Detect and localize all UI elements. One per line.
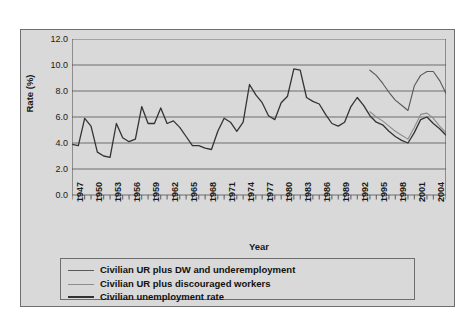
series-line: [370, 112, 446, 139]
legend-line-swatch: [68, 284, 94, 285]
x-tick-label: 1965: [190, 182, 199, 202]
x-tick-label: 1956: [133, 182, 142, 202]
legend-item: Civilian UR plus DW and underemployment: [68, 264, 295, 276]
gridlines: [72, 39, 446, 195]
x-tick-label: 1989: [342, 182, 351, 202]
y-tick-label: 0.0: [55, 191, 68, 200]
y-axis-tick-labels: 12.0 10.0 8.0 6.0 4.0 2.0 0.0: [31, 30, 68, 210]
y-tick-label: 4.0: [55, 139, 68, 148]
legend-line-swatch: [68, 270, 94, 271]
series-lines: [72, 69, 446, 157]
x-tick-label: 1953: [114, 182, 123, 202]
y-tick-label: 8.0: [55, 87, 68, 96]
plot-area: 1947195019531956195919621965196819711974…: [72, 39, 446, 195]
x-tick-label: 1971: [228, 182, 237, 202]
series-line: [370, 70, 446, 110]
series-line: [72, 69, 446, 157]
x-tick-label: 1977: [266, 182, 275, 202]
legend-item-label: Civilian UR plus DW and underemployment: [100, 265, 295, 275]
chart-screenshot: Rate (%) 12.0 10.0 8.0 6.0 4.0 2.0 0.0: [0, 0, 474, 321]
x-tick-label: 1968: [209, 182, 218, 202]
x-tick-label: 1986: [323, 182, 332, 202]
plot-svg: [72, 39, 446, 224]
x-tick-label: 1962: [171, 182, 180, 202]
x-tick-label: 1983: [304, 182, 313, 202]
y-tick-label: 10.0: [50, 61, 68, 70]
chart-inner: Rate (%) 12.0 10.0 8.0 6.0 4.0 2.0 0.0: [21, 30, 454, 306]
legend-line-swatch: [68, 296, 94, 298]
x-tick-label: 2004: [437, 182, 446, 202]
chart-frame: Rate (%) 12.0 10.0 8.0 6.0 4.0 2.0 0.0: [20, 29, 455, 307]
x-tick-label: 1959: [152, 182, 161, 202]
x-tick-label: 1950: [95, 182, 104, 202]
x-tick-label: 1998: [399, 182, 408, 202]
x-tick-label: 2001: [418, 182, 427, 202]
y-tick-label: 6.0: [55, 113, 68, 122]
x-axis-ticks: [72, 195, 446, 200]
x-tick-label: 1995: [380, 182, 389, 202]
legend-item-label: Civilian unemployment rate: [100, 292, 224, 302]
legend-item: Civilian UR plus discouraged workers: [68, 278, 271, 290]
chart-legend: Civilian UR plus DW and underemployment …: [60, 258, 415, 300]
x-tick-label: 1947: [76, 182, 85, 202]
x-tick-label: 1992: [361, 182, 370, 202]
x-tick-label: 1974: [247, 182, 256, 202]
x-axis-title: Year: [72, 241, 446, 252]
legend-item-label: Civilian UR plus discouraged workers: [100, 279, 271, 289]
x-tick-label: 1980: [285, 182, 294, 202]
legend-item: Civilian unemployment rate: [68, 291, 224, 303]
y-tick-label: 2.0: [55, 165, 68, 174]
y-tick-label: 12.0: [50, 35, 68, 44]
